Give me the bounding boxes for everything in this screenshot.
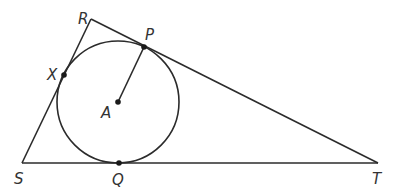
label-p: P <box>145 26 155 44</box>
label-x: X <box>46 66 58 84</box>
label-a: A <box>100 104 111 122</box>
label-s: S <box>14 170 24 188</box>
geometry-diagram: R P X A S Q T <box>0 0 395 193</box>
point-x <box>61 72 67 78</box>
radius-ap <box>118 47 144 102</box>
diagram-svg: R P X A S Q T <box>0 0 395 193</box>
side-rs <box>22 19 91 163</box>
point-a-center <box>115 99 121 105</box>
label-q: Q <box>112 171 124 189</box>
point-q <box>116 160 122 166</box>
label-r: R <box>78 10 88 28</box>
label-t: T <box>372 170 383 188</box>
point-p <box>141 44 147 50</box>
side-rt <box>91 19 378 163</box>
